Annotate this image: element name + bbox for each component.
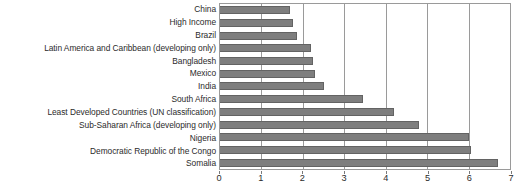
bar <box>220 6 290 14</box>
category-label: China <box>0 3 218 16</box>
bar-row <box>220 144 510 157</box>
bars-layer <box>220 4 510 169</box>
value-axis: 01234567 <box>219 171 511 187</box>
axis-tick-label: 3 <box>342 174 347 183</box>
bar-row <box>220 55 510 68</box>
bar <box>220 95 363 103</box>
bar <box>220 32 297 40</box>
category-label: Sub-Saharan Africa (developing only) <box>0 119 218 132</box>
axis-tick-label: 2 <box>300 174 305 183</box>
plot-area <box>219 3 511 170</box>
bar <box>220 44 311 52</box>
axis-tick-label: 1 <box>258 174 263 183</box>
bar <box>220 146 471 154</box>
bar-row <box>220 131 510 144</box>
bar-row <box>220 17 510 30</box>
bar <box>220 159 498 167</box>
category-label: Mexico <box>0 67 218 80</box>
bar-row <box>220 4 510 17</box>
category-label: Democratic Republic of the Congo <box>0 144 218 157</box>
axis-tick-label: 6 <box>467 174 472 183</box>
bar <box>220 57 313 65</box>
bar-chart: ChinaHigh IncomeBrazilLatin America and … <box>0 0 517 195</box>
category-label: Latin America and Caribbean (developing … <box>0 42 218 55</box>
axis-tick-label: 4 <box>383 174 388 183</box>
category-label: Bangladesh <box>0 54 218 67</box>
axis-tick-label: 0 <box>216 174 221 183</box>
category-label: Brazil <box>0 29 218 42</box>
axis-tick-label: 7 <box>508 174 513 183</box>
bar <box>220 82 324 90</box>
category-label: South Africa <box>0 93 218 106</box>
bar <box>220 121 419 129</box>
bar <box>220 133 469 141</box>
bar-row <box>220 80 510 93</box>
bar-row <box>220 106 510 119</box>
bar-row <box>220 93 510 106</box>
bar <box>220 70 315 78</box>
category-label: Somalia <box>0 157 218 170</box>
bar-row <box>220 42 510 55</box>
category-label: High Income <box>0 16 218 29</box>
bar-row <box>220 29 510 42</box>
category-label: Nigeria <box>0 131 218 144</box>
bar-row <box>220 67 510 80</box>
category-axis: ChinaHigh IncomeBrazilLatin America and … <box>0 3 218 170</box>
category-label: Least Developed Countries (UN classifica… <box>0 106 218 119</box>
bar-row <box>220 118 510 131</box>
category-label: India <box>0 80 218 93</box>
axis-tick-label: 5 <box>425 174 430 183</box>
bar-row <box>220 156 510 169</box>
bar <box>220 19 293 27</box>
bar <box>220 108 394 116</box>
